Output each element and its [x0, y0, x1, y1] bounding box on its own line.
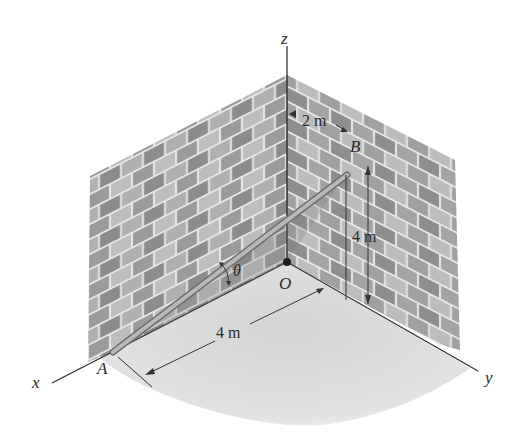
- point-b-label: B: [350, 137, 361, 156]
- x-axis-label: x: [31, 373, 40, 392]
- theta-label: θ: [233, 262, 241, 279]
- dimension-floor-4m-label: 4 m: [216, 324, 241, 341]
- point-a-label: A: [96, 359, 108, 378]
- dimension-2m-label: 2 m: [302, 112, 327, 129]
- origin-label: O: [279, 274, 291, 293]
- dimension-vertical-4m-label: 4 m: [352, 228, 377, 245]
- diagram-canvas: z x y O B A θ 2 m 4 m 4 m: [0, 0, 531, 448]
- y-axis-label: y: [483, 368, 493, 387]
- z-axis-label: z: [280, 29, 288, 48]
- origin-point: [283, 258, 291, 266]
